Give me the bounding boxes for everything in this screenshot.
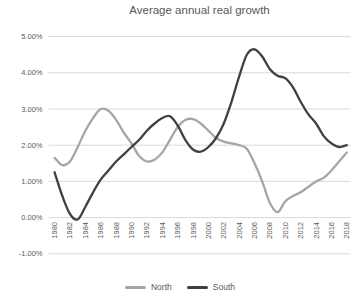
x-axis-label: 2000 — [204, 222, 213, 239]
plot-area: 5.00%4.00%3.00%2.00%1.00%0.00%-1.00%1980… — [0, 0, 360, 302]
legend-item-north: North — [125, 282, 172, 292]
chart: Average annual real growth 5.00%4.00%3.0… — [0, 0, 360, 302]
x-axis-label: 2018 — [342, 222, 351, 239]
x-axis-label: 2004 — [235, 222, 244, 239]
x-axis-label: 1994 — [158, 222, 167, 239]
x-axis-label: 1998 — [189, 222, 198, 239]
legend-item-south: South — [187, 282, 235, 292]
x-axis-label: 1980 — [50, 222, 59, 239]
y-axis-label: 1.00% — [21, 177, 43, 186]
x-axis-label: 1992 — [142, 222, 151, 239]
y-axis-label: 2.00% — [21, 141, 43, 150]
x-axis-label: 2016 — [327, 222, 336, 239]
x-axis-label: 2002 — [219, 222, 228, 239]
x-axis-label: 1982 — [65, 222, 74, 239]
legend: North South — [0, 282, 360, 292]
north-line-swatch-icon — [125, 286, 146, 289]
x-axis-label: 1996 — [173, 222, 182, 239]
legend-label-south: South — [213, 282, 235, 292]
x-axis-label: 2012 — [296, 222, 305, 239]
x-axis-label: 2010 — [281, 222, 290, 239]
south-line-swatch-icon — [187, 286, 208, 289]
x-axis-label: 1990 — [127, 222, 136, 239]
x-axis-label: 1984 — [81, 222, 90, 239]
y-axis-label: 0.00% — [21, 213, 43, 222]
legend-label-north: North — [151, 282, 172, 292]
x-axis-label: 2014 — [312, 222, 321, 239]
y-axis-label: 3.00% — [21, 105, 43, 114]
y-axis-label: -1.00% — [19, 249, 43, 258]
x-axis-label: 2008 — [265, 222, 274, 239]
x-axis-label: 1986 — [96, 222, 105, 239]
y-axis-label: 4.00% — [21, 68, 43, 77]
x-axis-label: 2006 — [250, 222, 259, 239]
series-line-south — [55, 49, 347, 219]
y-axis-label: 5.00% — [21, 32, 43, 41]
series-line-north — [55, 109, 347, 213]
x-axis-label: 1988 — [112, 222, 121, 239]
